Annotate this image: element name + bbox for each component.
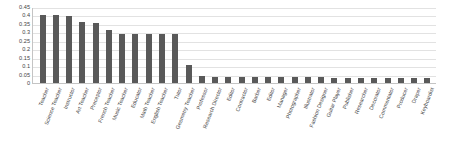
x-axis-tick: Art Teacher xyxy=(75,85,88,147)
bar-slot xyxy=(235,8,248,83)
x-axis-tick: Editor xyxy=(221,85,234,147)
y-axis-tick-label: 0 xyxy=(0,81,30,87)
y-axis-tick-label: 0.4 xyxy=(0,14,30,20)
x-axis-tick: Research Director xyxy=(208,85,221,147)
x-axis-tick: Editor xyxy=(261,85,274,147)
x-axis-tick: Music Teacher xyxy=(115,85,128,147)
x-axis-tick: Guitar Player xyxy=(328,85,341,147)
x-axis-tick: English Teacher xyxy=(155,85,168,147)
x-axis-tick: Photographer xyxy=(288,85,301,147)
y-axis-tick-label: 0.15 xyxy=(0,56,30,62)
y-axis-tick-label: 0.45 xyxy=(0,5,30,11)
x-axis: TeacherScience TeacherInstructorArt Teac… xyxy=(32,85,436,147)
x-axis-tick: Geometry Teacher xyxy=(181,85,194,147)
y-axis-tick-label: 0.3 xyxy=(0,31,30,37)
x-axis-tick: Science Teacher xyxy=(48,85,61,147)
x-axis-tick: Keyboardist xyxy=(421,85,434,147)
y-axis-tick-label: 0.35 xyxy=(0,22,30,28)
y-axis: 0.450.40.350.30.250.20.150.10.050 xyxy=(0,8,30,84)
x-axis-tick: Instructor xyxy=(62,85,75,147)
bar-slot xyxy=(182,8,195,83)
x-axis-tick: Producer xyxy=(394,85,407,147)
x-axis-tick: Draper xyxy=(407,85,420,147)
bar-slot xyxy=(36,8,49,83)
x-axis-tick: Publisher xyxy=(341,85,354,147)
x-axis-tick: Contractor xyxy=(234,85,247,147)
x-axis-tick: Commentator xyxy=(381,85,394,147)
y-axis-tick-label: 0.2 xyxy=(0,47,30,53)
y-axis-tick-label: 0.25 xyxy=(0,39,30,45)
y-axis-tick-label: 0.05 xyxy=(0,73,30,79)
bar-chart: 0.450.40.350.30.250.20.150.10.050 Teache… xyxy=(0,0,450,147)
bar-slot xyxy=(275,8,288,83)
bar xyxy=(40,15,46,83)
x-axis-tick: Barber xyxy=(248,85,261,147)
y-axis-tick-label: 0.1 xyxy=(0,64,30,70)
x-axis-tick: Researcher xyxy=(354,85,367,147)
